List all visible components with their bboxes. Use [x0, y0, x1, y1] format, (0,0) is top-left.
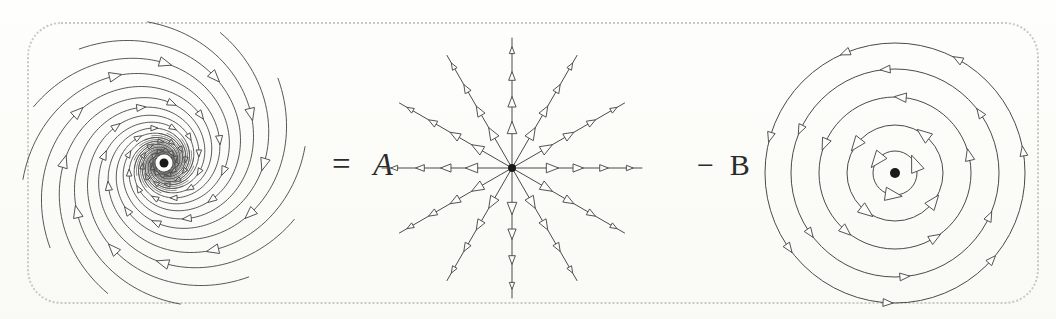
radial-arrowhead [507, 121, 517, 133]
circular-core-group [890, 168, 900, 178]
spiral-arrowhead [137, 186, 143, 194]
spiral-arrowhead [99, 151, 106, 161]
circular-arrowhead [783, 242, 792, 252]
spiral-arrowhead [156, 260, 169, 269]
radial-arrowhead [573, 164, 584, 172]
spiral-arrowhead [167, 98, 177, 105]
circular-arrowhead [822, 137, 831, 150]
spiral-arrowhead [152, 196, 160, 202]
radial-arrowhead [509, 47, 514, 54]
circular-arrowhead [804, 227, 813, 237]
spiral-arrowhead [152, 221, 162, 228]
spiral-arrowhead [158, 57, 171, 66]
radial-arrowhead [610, 107, 617, 113]
radial-arrowhead [450, 195, 461, 204]
circular-arrowhead [840, 48, 851, 55]
equals-sign: = [332, 146, 358, 182]
spiral-arrowhead [208, 194, 217, 202]
radial-arrowhead [429, 120, 438, 127]
spiral-arrowhead [126, 169, 132, 176]
radial-arrowhead [509, 256, 516, 265]
radial-arrowhead [429, 209, 438, 216]
radial-arrowhead [563, 195, 574, 204]
radial-arrowhead [626, 165, 633, 170]
radial-arrowhead [464, 85, 471, 94]
circular-arrowhead [984, 212, 992, 223]
circular-arrowhead [912, 155, 924, 173]
radial-arrowhead [464, 242, 471, 251]
radial-arrowhead [391, 165, 398, 170]
radial-arrowhead [567, 266, 573, 273]
circular-center-dot [890, 168, 900, 178]
circular-arrowhead [857, 203, 872, 217]
spiral-arrowhead [108, 73, 121, 82]
spiral-arrowhead [134, 136, 142, 142]
radial-arrowhead [451, 266, 457, 273]
radial-arrowhead [489, 195, 499, 208]
radial-arrowhead [553, 85, 560, 94]
radial-arrowhead [465, 163, 477, 173]
radial-arrowhead [509, 72, 516, 81]
spiral-arrowhead [216, 135, 223, 144]
spiral-arrowhead [124, 207, 132, 216]
radial-arrowhead [476, 106, 485, 117]
circular-arrowhead [851, 135, 865, 150]
spiral-arrowhead [58, 155, 67, 168]
circular-field-panel [750, 0, 1056, 319]
spiral-field-svg [0, 0, 340, 319]
circular-field-svg [750, 0, 1056, 319]
radial-arrowhead [586, 120, 595, 127]
spiral-arrowhead [105, 181, 112, 190]
spiral-arrowhead [197, 168, 203, 176]
radial-arrowhead [451, 63, 457, 70]
circular-arrowhead [884, 187, 902, 200]
radial-field-panel [380, 0, 650, 319]
spiral-arrowhead [169, 124, 177, 130]
radial-arrowhead [440, 164, 451, 172]
circular-arrowhead [768, 131, 775, 142]
radial-arrowhead [567, 63, 573, 70]
radial-arrowhead [546, 163, 558, 173]
spiral-arrowhead [182, 215, 191, 222]
spiral-field-panel [0, 0, 340, 319]
radial-core-group [508, 164, 516, 172]
spiral-arrowhead [245, 107, 254, 120]
radial-arrowhead [539, 106, 548, 117]
circular-arrowhead [917, 129, 932, 143]
radial-field-svg [380, 0, 650, 319]
spiral-arrowhead [222, 166, 229, 176]
radial-arrowhead [407, 107, 414, 113]
radial-arrowhead [508, 229, 516, 240]
circular-arrowhead [900, 273, 910, 281]
spiral-arrowhead [74, 205, 83, 218]
spiral-arrowhead [261, 157, 270, 170]
spiral-arrowhead [185, 133, 191, 141]
spiral-arrowhead [206, 244, 219, 253]
figure-canvas: = A − B [0, 0, 1056, 319]
circular-arrowhead [966, 149, 975, 162]
spiral-arrowhead [196, 150, 202, 157]
radial-arrowhead [489, 128, 499, 141]
radial-arrowhead [563, 132, 574, 141]
circular-arrowhead [1020, 146, 1028, 157]
radial-arrowhead [586, 209, 595, 216]
spiral-arrowhead [170, 195, 177, 201]
circular-arrowhead [880, 65, 890, 73]
radial-arrowhead [539, 181, 552, 191]
radial-arrowhead [525, 128, 535, 141]
minus-sign: − [697, 148, 718, 181]
radial-center-dot [508, 164, 516, 172]
circular-arrowhead [798, 124, 806, 135]
circular-arrowhead [925, 195, 939, 210]
spiral-center-dot [160, 159, 169, 168]
minus-b-label: − B [697, 149, 754, 180]
circular-arrowhead [953, 57, 964, 65]
radial-arrowhead [553, 242, 560, 251]
circular-arrowhead [883, 299, 893, 307]
radial-arrowhead [610, 223, 617, 229]
radial-arrowhead [600, 165, 609, 172]
radial-arrowhead [539, 145, 552, 155]
spiral-arrowhead [187, 184, 195, 190]
circular-arrowhead [928, 234, 941, 244]
radial-arrowhead [508, 96, 516, 107]
